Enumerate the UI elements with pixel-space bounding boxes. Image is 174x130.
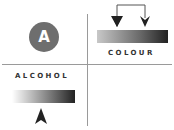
down-arrow-left-icon <box>111 16 123 27</box>
up-arrow-icon <box>35 108 47 124</box>
arrow-layer <box>0 0 174 130</box>
